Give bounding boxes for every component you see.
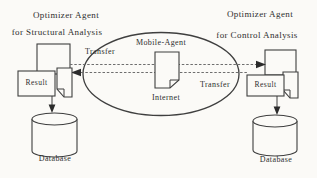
right-agent-box [265, 50, 296, 75]
left-agent-title-line1: Optimizer Agent [16, 11, 116, 20]
transfer-right-label: Transfer [185, 81, 245, 89]
right-agent-title-line1: Optimizer Agent [210, 10, 310, 19]
left-agent-title-line2: for Structural Analysis [2, 28, 112, 37]
left-result-label: Result [18, 79, 55, 87]
diagram-canvas: Optimizer Agent for Structural Analysis … [0, 0, 317, 178]
transfer-left-label: Transfer [70, 48, 130, 56]
left-down-arrowhead-icon [49, 105, 56, 114]
right-database-cylinder-top [253, 115, 297, 127]
left-database-cylinder-top [32, 113, 77, 125]
right-agent-title-line2: for Control Analysis [205, 31, 309, 40]
left-database-label: Database [25, 155, 85, 163]
right-result-label: Result [247, 81, 284, 89]
mobile-agent-label: Mobile-Agent [111, 39, 211, 47]
mobile-agent-document-icon [155, 52, 179, 88]
internet-label: Internet [116, 94, 216, 102]
right-database-label: Database [246, 156, 306, 164]
right-down-arrowhead-icon [274, 107, 281, 116]
